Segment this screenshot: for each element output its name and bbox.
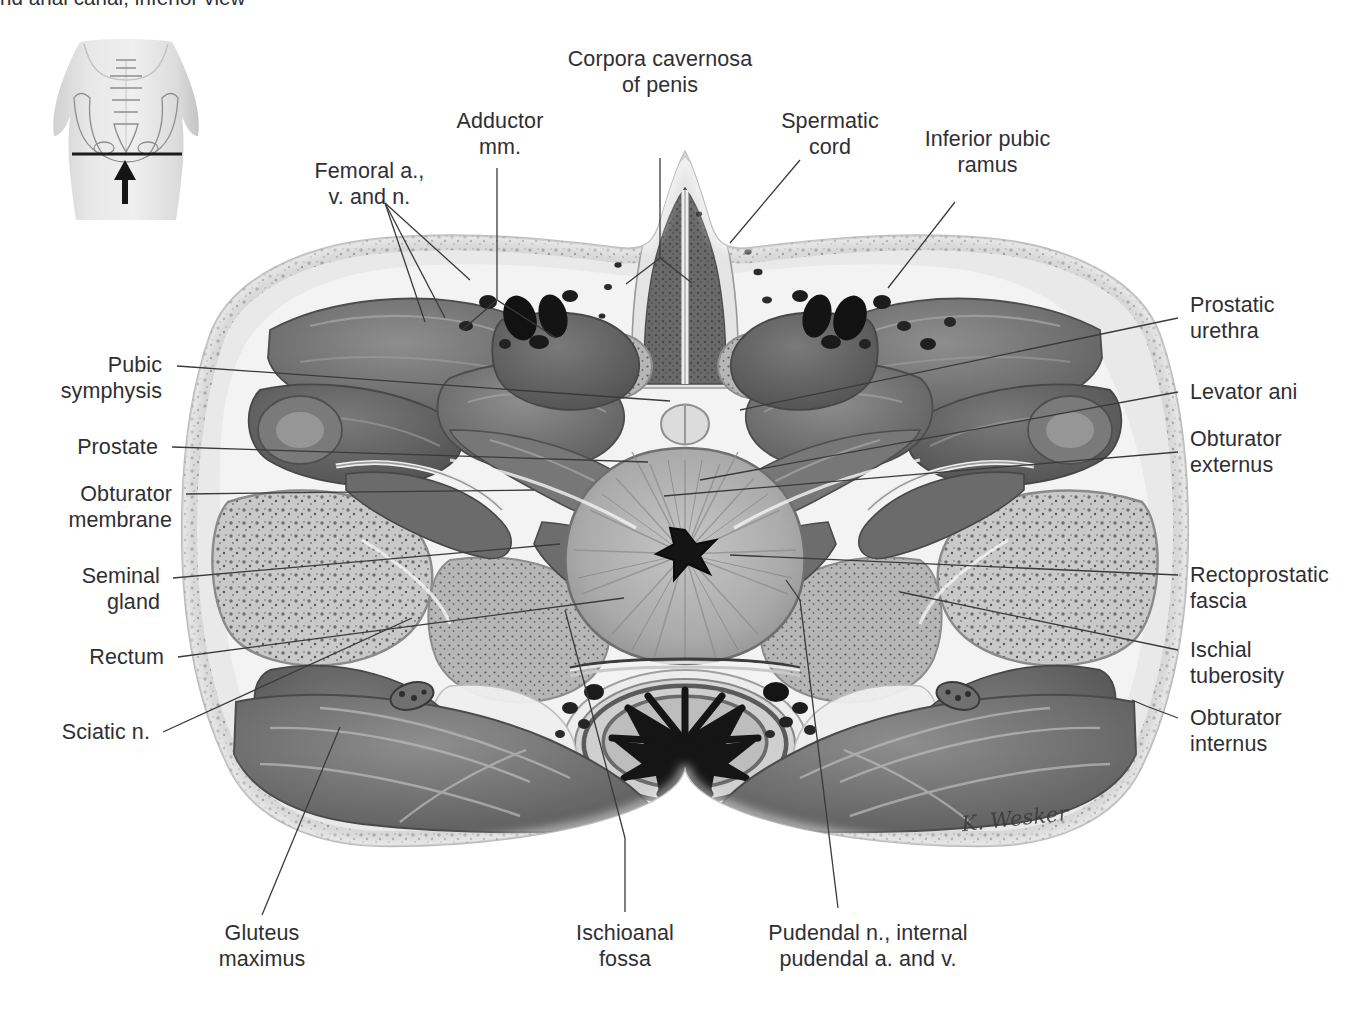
- label-corpora-cavernosa-of-penis: Corpora cavernosa of penis: [540, 46, 780, 98]
- label-obturator-internus: Obturator internus: [1190, 705, 1369, 757]
- label-gluteus-maximus: Gluteus maximus: [162, 920, 362, 972]
- anatomy-figure-page: K. Wesker nd anal canal, inferior view C…: [0, 0, 1369, 1025]
- inferior-pubic-ramus-left: [258, 396, 342, 464]
- label-levator-ani: Levator ani: [1190, 379, 1369, 405]
- label-pubic-symphysis: Pubic symphysis: [0, 352, 162, 404]
- label-ischioanal-fossa: Ischioanal fossa: [545, 920, 705, 972]
- label-ischial-tuberosity: Ischial tuberosity: [1190, 637, 1369, 689]
- label-seminal-gland: Seminal gland: [0, 563, 160, 615]
- label-pudendal-nerve-vessels: Pudendal n., internal pudendal a. and v.: [718, 920, 1018, 972]
- label-prostatic-urethra: Prostatic urethra: [1190, 292, 1369, 344]
- label-rectoprostatic-fascia: Rectoprostatic fascia: [1190, 562, 1369, 614]
- label-obturator-externus: Obturator externus: [1190, 426, 1369, 478]
- label-rectum: Rectum: [0, 644, 164, 670]
- label-femoral-a-v-and-n: Femoral a., v. and n.: [282, 158, 457, 210]
- label-inferior-pubic-ramus: Inferior pubic ramus: [880, 126, 1095, 178]
- pubic-symphysis: [661, 404, 709, 445]
- figure-caption: nd anal canal, inferior view: [0, 0, 246, 10]
- label-adductor-mm: Adductor mm.: [420, 108, 580, 160]
- orientation-thumbnail: [46, 36, 206, 222]
- label-prostate: Prostate: [0, 434, 158, 460]
- inferior-pubic-ramus-right: [1028, 396, 1112, 464]
- label-obturator-membrane: Obturator membrane: [0, 481, 172, 533]
- label-sciatic-n: Sciatic n.: [0, 719, 150, 745]
- transverse-section-illustration: [150, 130, 1220, 860]
